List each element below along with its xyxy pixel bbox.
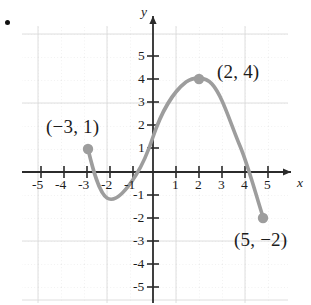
x-tick-label--5: -5 — [32, 178, 43, 192]
graph-figure: -5 -4 -3 -2 -1 1 2 3 4 5 5 4 3 2 1 -1 -2… — [0, 0, 311, 305]
x-tick-label-4: 4 — [241, 178, 248, 192]
y-tick-label--1: -1 — [133, 188, 144, 202]
y-tick-label--5: -5 — [133, 280, 144, 294]
x-tick-label-1: 1 — [172, 178, 179, 192]
y-tick-label--3: -3 — [133, 234, 144, 248]
x-tick-label-3: 3 — [218, 178, 225, 192]
data-point-marker — [83, 144, 93, 154]
y-axis-arrow-icon — [149, 16, 156, 24]
x-tick-label--2: -2 — [101, 178, 112, 192]
x-axis-label: x — [297, 176, 303, 190]
annotation-point-5-neg2: (5, −2) — [234, 230, 287, 249]
y-tick-label-2: 2 — [138, 118, 145, 132]
x-tick-label-2: 2 — [195, 178, 202, 192]
x-tick-label-5: 5 — [264, 178, 271, 192]
data-point-marker — [258, 213, 268, 223]
graph-canvas — [0, 0, 311, 305]
data-point-marker — [194, 74, 204, 84]
x-tick-label--4: -4 — [55, 178, 66, 192]
annotation-point-neg3-1: (−3, 1) — [46, 117, 99, 136]
x-tick-label--3: -3 — [78, 178, 89, 192]
y-tick-label--2: -2 — [133, 211, 144, 225]
y-tick-label-5: 5 — [138, 49, 145, 63]
y-tick-label--4: -4 — [133, 257, 144, 271]
y-tick-label-4: 4 — [138, 72, 145, 86]
annotation-point-2-4: (2, 4) — [217, 62, 259, 81]
y-tick-label-1: 1 — [138, 141, 145, 155]
y-axis-label: y — [141, 5, 147, 19]
y-tick-label-3: 3 — [138, 95, 145, 109]
